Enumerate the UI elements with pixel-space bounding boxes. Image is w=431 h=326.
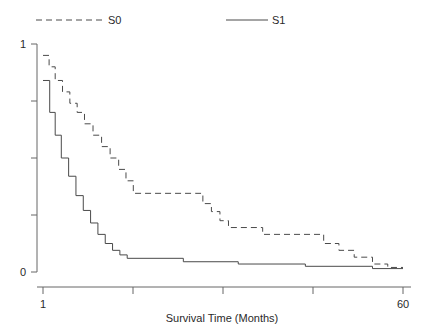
survival-plot-figure: S0 S1 1 0 1 60 Survival Time (Months) <box>0 0 431 326</box>
y-tick-label-max: 1 <box>20 38 26 50</box>
y-axis: 1 0 <box>20 38 37 278</box>
chart-legend: S0 S1 <box>36 14 285 26</box>
series-line-s0 <box>43 55 403 267</box>
legend-label-s1: S1 <box>272 14 285 26</box>
y-tick-label-min: 0 <box>20 266 26 278</box>
x-tick-label-min: 1 <box>40 298 46 310</box>
x-axis-title: Survival Time (Months) <box>166 312 278 324</box>
legend-label-s0: S0 <box>108 14 121 26</box>
chart-canvas: S0 S1 1 0 1 60 Survival Time (Months) <box>0 0 431 326</box>
series-line-s1 <box>43 80 403 268</box>
x-axis: 1 60 Survival Time (Months) <box>37 287 411 324</box>
x-tick-label-max: 60 <box>397 298 409 310</box>
series-group <box>43 55 403 268</box>
